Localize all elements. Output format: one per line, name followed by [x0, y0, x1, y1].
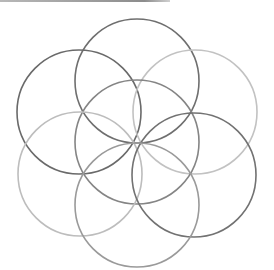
bottom-circle: [75, 143, 199, 267]
lower-right-circle: [132, 113, 256, 237]
center-circle: [75, 80, 199, 204]
top-circle: [75, 19, 199, 143]
upper-right-circle: [133, 50, 257, 174]
seed-of-life-diagram: [0, 0, 274, 270]
